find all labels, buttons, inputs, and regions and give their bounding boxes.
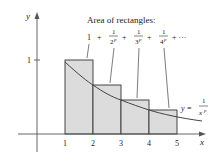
curve-label-den: x xyxy=(198,109,203,117)
diagram-title: Area of rectangles: xyxy=(87,15,155,25)
curve-label: y = 1 x p xyxy=(180,97,208,117)
leader-line-1 xyxy=(87,44,89,58)
y-axis-arrow-icon xyxy=(35,12,40,19)
ellipsis: + ··· xyxy=(172,33,187,42)
y-tick-label-1: 1 xyxy=(27,56,31,65)
x-tick-labels: 1 2 3 4 5 xyxy=(63,139,179,148)
leader-line-4 xyxy=(164,48,169,108)
plus-sign: + xyxy=(147,33,152,42)
x-axis-arrow-icon xyxy=(199,132,206,137)
x-tick-label-5: 5 xyxy=(175,139,179,148)
plus-sign: + xyxy=(122,33,127,42)
curve-label-num: 1 xyxy=(202,97,206,105)
rectangle-1 xyxy=(65,60,93,134)
series-term-2-exp: p xyxy=(113,37,117,42)
rectangles xyxy=(65,60,177,134)
series-term-3-exp: p xyxy=(138,37,142,42)
curve-label-lhs: y = xyxy=(180,104,192,113)
series-term-3-num: 1 xyxy=(137,28,141,36)
curve-label-exp: p xyxy=(203,108,207,113)
series-term-2-num: 1 xyxy=(112,28,116,36)
x-tick-label-3: 3 xyxy=(119,139,123,148)
x-axis-label: x xyxy=(199,137,204,147)
x-tick-label-1: 1 xyxy=(63,139,67,148)
leader-line-3 xyxy=(137,48,139,98)
series-term-1: 1 xyxy=(87,33,91,42)
x-tick-label-4: 4 xyxy=(147,139,151,148)
y-axis-label: y xyxy=(25,11,30,21)
leader-line-2 xyxy=(110,48,114,83)
series-expression: 1 + 1 2 p + 1 3 p + 1 4 p + ··· xyxy=(87,28,187,46)
series-term-4-num: 1 xyxy=(162,28,166,36)
plus-sign: + xyxy=(97,33,102,42)
rectangle-2 xyxy=(93,85,121,134)
series-term-4-exp: p xyxy=(163,37,167,42)
x-tick-label-2: 2 xyxy=(91,139,95,148)
series-area-diagram: y x 1 1 2 3 4 5 Area of rectangles: 1 + … xyxy=(0,0,222,157)
